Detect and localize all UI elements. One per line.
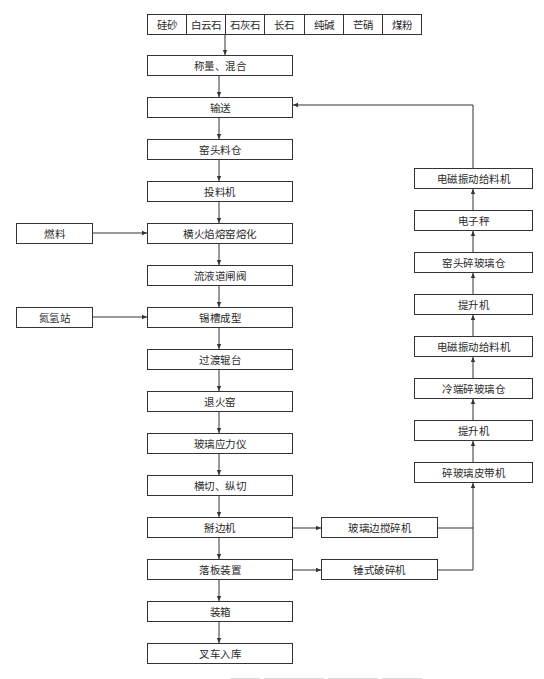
input-fuel: 燃料 <box>16 223 93 244</box>
step-batch-charger: 投料机 <box>147 181 293 202</box>
step-forklift-warehousing: 叉车入库 <box>147 643 293 664</box>
step-glass-stress-meter: 玻璃应力仪 <box>147 433 293 454</box>
loop-elevator-upper: 提升机 <box>414 294 533 315</box>
step-packing: 装箱 <box>147 601 293 622</box>
material-soda-ash: 纯碱 <box>305 15 344 34</box>
material-silica-sand: 硅砂 <box>148 15 187 34</box>
step-canal-gate: 流液道闸阀 <box>147 265 293 286</box>
step-transition-roller-table: 过渡辊台 <box>147 349 293 370</box>
material-mirabilite: 芒硝 <box>344 15 383 34</box>
loop-electromagnetic-vibrating-feeder-top: 电磁振动给料机 <box>414 168 533 189</box>
material-dolomite: 白云石 <box>187 15 226 34</box>
material-limestone: 石灰石 <box>226 15 265 34</box>
step-tin-bath-forming: 锡槽成型 <box>147 307 293 328</box>
raw-materials-row: 硅砂 白云石 石灰石 长石 纯碱 芒硝 煤粉 <box>147 14 422 35</box>
loop-elevator-lower: 提升机 <box>414 420 533 441</box>
loop-electromagnetic-vibrating-feeder-lower: 电磁振动给料机 <box>414 336 533 357</box>
edge-crusher: 玻璃边搅碎机 <box>321 517 438 538</box>
loop-electronic-scale: 电子秤 <box>414 210 533 231</box>
step-edge-snapping-machine: 掰边机 <box>147 517 293 538</box>
figure-caption-illegible <box>230 666 440 672</box>
input-nitrogen-hydrogen-station: 氮氢站 <box>16 307 93 328</box>
step-cross-fired-furnace-melting: 横火焰熔窑熔化 <box>147 223 293 244</box>
loop-kiln-head-cullet-silo: 窑头碎玻璃仓 <box>414 252 533 273</box>
step-kiln-head-silo: 窑头料仓 <box>147 139 293 160</box>
step-plate-dropping-device: 落板装置 <box>147 559 293 580</box>
step-weighing-mixing: 称量、混合 <box>147 55 293 76</box>
step-cross-longitudinal-cutting: 横切、纵切 <box>147 475 293 496</box>
step-annealing-lehr: 退火窑 <box>147 391 293 412</box>
material-coal-powder: 煤粉 <box>383 15 421 34</box>
material-feldspar: 长石 <box>265 15 304 34</box>
loop-cold-end-cullet-silo: 冷端碎玻璃仓 <box>414 378 533 399</box>
step-conveying: 输送 <box>147 97 293 118</box>
hammer-crusher: 锤式破碎机 <box>321 559 438 580</box>
loop-cullet-belt-conveyor: 碎玻璃皮带机 <box>414 462 533 483</box>
